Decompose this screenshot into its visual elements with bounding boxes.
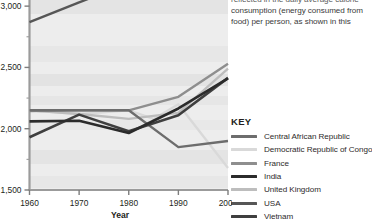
legend-item: India: [231, 170, 358, 183]
y-axis-tick-label: 2,500: [1, 62, 22, 72]
chart-svg: 1,5002,0002,5003,00019601970198019902000…: [0, 0, 232, 223]
legend-item: Democratic Republic of Congo: [231, 143, 358, 156]
legend-item-label: India: [264, 172, 281, 181]
legend-color-swatch: [231, 148, 257, 151]
legend-color-swatch: [231, 215, 257, 218]
legend-item: Vietnam: [231, 210, 358, 223]
plot-texture-band: [30, 46, 229, 62]
article-line-3: food) per person, as shown in this: [231, 16, 363, 27]
legend-item: France: [231, 157, 358, 170]
legend-item-label: Vietnam: [264, 212, 293, 221]
article-paragraph: reflected in the daily average calorie c…: [231, 0, 363, 28]
legend-item-label: USA: [264, 199, 281, 208]
legend-item-label: Democratic Republic of Congo: [264, 145, 372, 154]
plot-texture-band: [30, 0, 229, 14]
x-axis-tick-label: 1990: [169, 198, 188, 208]
y-axis-tick-label: 1,500: [1, 185, 22, 195]
x-axis-title: Year: [111, 210, 130, 220]
x-axis-tick-label: 1980: [119, 198, 138, 208]
article-line-2: consumption (energy consumed from: [231, 5, 363, 16]
x-axis-tick-label: 1970: [70, 198, 89, 208]
key-heading: KEY: [231, 116, 251, 127]
legend-item: United Kingdom: [231, 183, 358, 196]
legend-item: USA: [231, 196, 358, 209]
legend-color-swatch: [231, 175, 257, 178]
legend-color-swatch: [231, 135, 257, 138]
plot-texture-band: [30, 176, 229, 188]
legend-color-swatch: [231, 188, 257, 191]
legend-item: Central African Republic: [231, 130, 358, 143]
plot-texture-band: [30, 150, 229, 164]
legend-item-label: Central African Republic: [264, 132, 350, 141]
legend-item-label: United Kingdom: [264, 185, 321, 194]
legend-color-swatch: [231, 202, 257, 205]
calorie-consumption-line-chart: 1,5002,0002,5003,00019601970198019902000…: [0, 0, 232, 223]
y-axis-tick-label: 2,000: [1, 124, 22, 134]
y-axis-tick-label: 3,000: [1, 1, 22, 11]
chart-legend: Central African RepublicDemocratic Repub…: [231, 130, 358, 223]
legend-color-swatch: [231, 162, 257, 165]
legend-item-label: France: [264, 159, 289, 168]
x-axis-tick-label: 2000: [219, 198, 232, 208]
x-axis-tick-label: 1960: [20, 198, 39, 208]
